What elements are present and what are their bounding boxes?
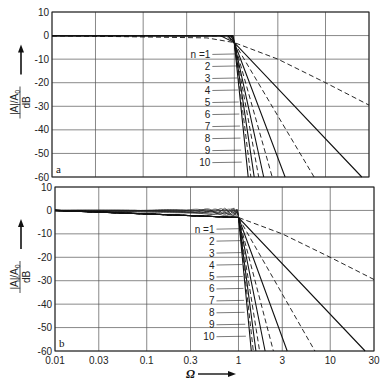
order-label: 7 <box>205 121 211 132</box>
order-label: n =1 <box>195 224 215 235</box>
y-tick-label: 0 <box>46 205 52 216</box>
x-axis-label: Ω <box>186 367 195 381</box>
x-tick-label: 1 <box>236 355 242 366</box>
y-tick-label: 10 <box>38 7 50 18</box>
y-tick-label: -20 <box>35 77 50 88</box>
x-axis-labels: 0.010.030.10.3131030Ω <box>45 355 380 381</box>
order-label: 6 <box>205 109 211 120</box>
svg-text:dB: dB <box>21 96 32 109</box>
y-tick-label: -20 <box>38 252 53 263</box>
order-label: 10 <box>203 331 215 342</box>
order-label: 10 <box>199 157 211 168</box>
grid <box>52 12 369 177</box>
order-label: 5 <box>205 97 211 108</box>
x-tick-label: 10 <box>325 355 337 366</box>
order-label: 8 <box>205 133 211 144</box>
filter-response-figure: 100-10-20-30-40-50-60|A|/A0dBn =12345678… <box>0 0 384 382</box>
y-tick-label: -50 <box>38 322 53 333</box>
y-tick-label: 10 <box>41 182 53 193</box>
y-tick-label: -40 <box>35 124 50 135</box>
order-label: 4 <box>205 85 211 96</box>
y-tick-label: 0 <box>43 30 49 41</box>
x-tick-label: 0.1 <box>140 355 154 366</box>
order-label: 3 <box>209 248 215 259</box>
svg-text:|A|/A0: |A|/A0 <box>9 90 21 115</box>
plot-frame <box>52 12 369 177</box>
panel-tag: b <box>59 337 65 349</box>
order-label: 2 <box>209 236 215 247</box>
panel-a-butterworth: 100-10-20-30-40-50-60|A|/A0dBn =12345678… <box>9 7 369 183</box>
order-label: n =1 <box>191 49 211 60</box>
y-axis-label: |A|/A0dB <box>9 87 32 119</box>
order-label: 9 <box>205 145 211 156</box>
order-label: 2 <box>205 61 211 72</box>
y-tick-label: -10 <box>38 228 53 239</box>
x-tick-label: 30 <box>368 355 380 366</box>
order-label: 6 <box>209 283 215 294</box>
y-tick-label: -30 <box>38 275 53 286</box>
order-label: 8 <box>209 307 215 318</box>
order-label: 4 <box>209 260 215 271</box>
y-tick-label: -30 <box>35 101 50 112</box>
y-axis-label: |A|/A0dB <box>9 261 32 293</box>
x-tick-label: 0.03 <box>89 355 109 366</box>
y-tick-label: -50 <box>35 148 50 159</box>
x-tick-label: 0.01 <box>45 355 65 366</box>
order-label: 9 <box>209 319 215 330</box>
order-label: 3 <box>205 73 211 84</box>
panel-tag: a <box>56 163 61 175</box>
curve-n1 <box>55 210 374 279</box>
curve-n1 <box>52 36 369 106</box>
x-tick-label: 3 <box>279 355 285 366</box>
panel-b-chebyshev: 100-10-20-30-40-50-60|A|/A0dBn =12345678… <box>9 182 374 357</box>
x-tick-label: 0.3 <box>184 355 198 366</box>
svg-text:dB: dB <box>21 271 32 284</box>
order-label: 5 <box>209 271 215 282</box>
y-tick-label: -10 <box>35 54 50 65</box>
y-tick-label: -40 <box>38 299 53 310</box>
order-label: 7 <box>209 295 215 306</box>
